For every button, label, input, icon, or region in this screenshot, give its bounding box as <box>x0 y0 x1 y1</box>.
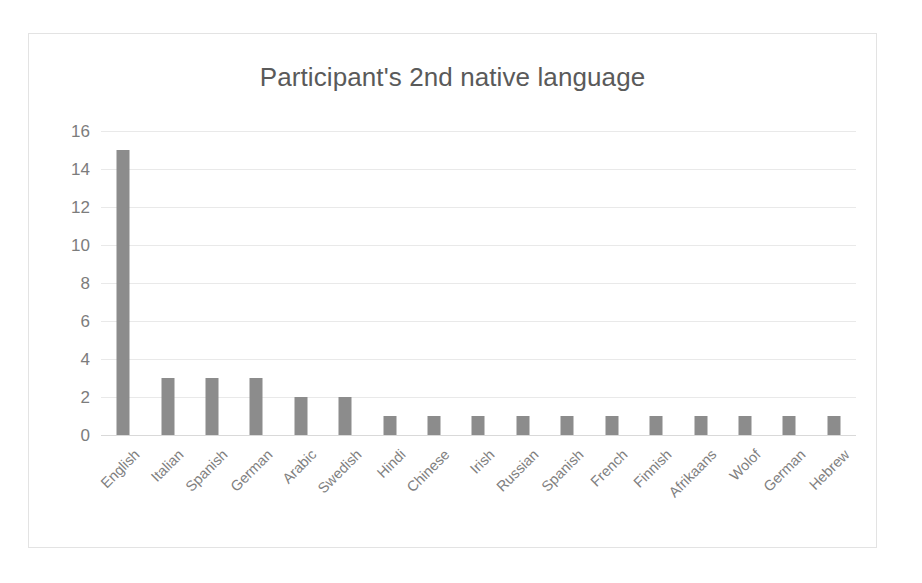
bar-slot <box>456 131 500 435</box>
x-axis-tick-label: Irish <box>467 447 497 477</box>
bar <box>650 416 663 435</box>
y-axis-tick-label: 8 <box>81 275 90 292</box>
bar <box>783 416 796 435</box>
bar <box>694 416 707 435</box>
y-axis-tick-label: 16 <box>71 123 90 140</box>
bar <box>206 378 219 435</box>
bar <box>428 416 441 435</box>
x-axis-tick-label: Hindi <box>375 447 409 481</box>
x-axis-tick-label: Spanish <box>539 447 587 495</box>
bar <box>294 397 307 435</box>
bar-slot <box>101 131 145 435</box>
bar <box>339 397 352 435</box>
y-axis-tick-label: 2 <box>81 389 90 406</box>
bar-slot <box>812 131 856 435</box>
bar-slot <box>723 131 767 435</box>
bar-slot <box>767 131 811 435</box>
bar <box>516 416 529 435</box>
bar-slot <box>545 131 589 435</box>
bar <box>561 416 574 435</box>
y-axis-tick-label: 6 <box>81 313 90 330</box>
bar <box>117 150 130 435</box>
bar <box>605 416 618 435</box>
bar-slot <box>634 131 678 435</box>
x-axis-tick-label: German <box>761 447 809 495</box>
x-axis-tick-label: Spanish <box>183 447 231 495</box>
gridline <box>101 435 856 436</box>
bar-slot <box>145 131 189 435</box>
bar-slot <box>412 131 456 435</box>
x-axis-tick-label: Afrikaans <box>666 447 719 500</box>
bar-slot <box>590 131 634 435</box>
x-axis-tick-label: Hebrew <box>807 447 853 493</box>
chart-frame: Participant's 2nd native language 024681… <box>28 33 877 548</box>
bar <box>383 416 396 435</box>
bar-slot <box>367 131 411 435</box>
y-axis-tick-label: 0 <box>81 427 90 444</box>
y-axis-tick-label: 4 <box>81 351 90 368</box>
x-axis-tick-label: French <box>588 447 631 490</box>
x-axis-tick-label: German <box>228 447 276 495</box>
x-axis-tick-label: Wolof <box>727 447 764 484</box>
y-axis-tick-label: 12 <box>71 199 90 216</box>
bar-slot <box>501 131 545 435</box>
x-axis-tick-label: Chinese <box>405 447 453 495</box>
bar-slot <box>234 131 278 435</box>
x-axis-tick-label: Swedish <box>315 447 364 496</box>
bar-slot <box>678 131 722 435</box>
bar <box>161 378 174 435</box>
x-axis-tick-label: Russian <box>494 447 542 495</box>
bar-slot <box>279 131 323 435</box>
bar <box>472 416 485 435</box>
bar <box>738 416 751 435</box>
x-axis-tick-label: Arabic <box>280 447 320 487</box>
x-axis-tick-label: Italian <box>149 447 187 485</box>
y-axis-tick-label: 14 <box>71 161 90 178</box>
plot-area: 0246810121416 EnglishItalianSpanishGerma… <box>101 131 856 435</box>
y-axis-tick-label: 10 <box>71 237 90 254</box>
bar <box>250 378 263 435</box>
bar <box>827 416 840 435</box>
bar-slot <box>190 131 234 435</box>
x-axis-tick-label: English <box>98 447 142 491</box>
chart-title: Participant's 2nd native language <box>29 62 876 92</box>
bar-slot <box>323 131 367 435</box>
